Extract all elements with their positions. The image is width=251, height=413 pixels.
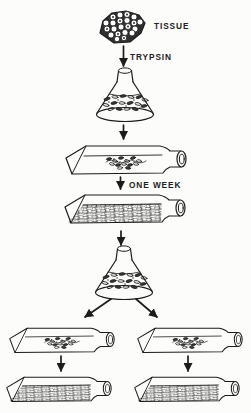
erlenmeyer-flask-2 bbox=[96, 246, 153, 300]
culture-bottle-confluent-right bbox=[135, 377, 239, 402]
cell-culture-flow-diagram: TISSUE TRYPSIN ONE WEEK bbox=[0, 0, 251, 413]
tissue-fragment-icon bbox=[100, 11, 145, 43]
trypsin-label: TRYPSIN bbox=[130, 52, 172, 62]
split-arrow-left bbox=[85, 299, 111, 317]
culture-bottle-confluent-1 bbox=[65, 195, 185, 224]
culture-bottle-sparse-1 bbox=[66, 146, 186, 174]
tissue-label: TISSUE bbox=[154, 21, 189, 31]
culture-bottle-sparse-right bbox=[138, 328, 242, 352]
culture-bottle-confluent-left bbox=[7, 377, 111, 402]
one-week-label: ONE WEEK bbox=[129, 180, 181, 190]
culture-bottle-sparse-left bbox=[10, 328, 114, 352]
erlenmeyer-flask-1 bbox=[97, 68, 154, 122]
split-arrow-right bbox=[136, 299, 157, 317]
diagram-page: TISSUE TRYPSIN ONE WEEK bbox=[0, 0, 251, 413]
